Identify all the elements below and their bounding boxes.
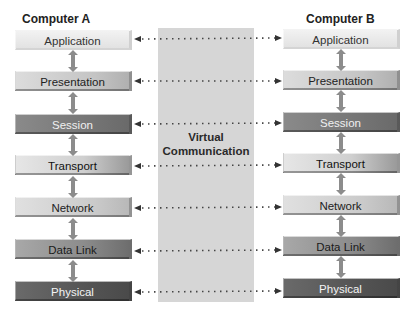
double-arrow-icon [68,49,346,282]
vertical-arrows-left [0,0,411,317]
peer-arrows [142,38,275,292]
